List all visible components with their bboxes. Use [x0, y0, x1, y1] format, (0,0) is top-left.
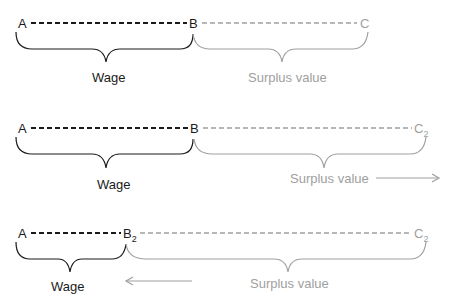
point-c-subscript: 2: [423, 234, 428, 244]
surplus-value-label: Surplus value: [290, 172, 369, 185]
point-c-letter: C: [414, 226, 423, 241]
surplus-value-label: Surplus value: [250, 277, 329, 290]
wage-brace: [16, 242, 126, 272]
point-c-subscript: 2: [423, 129, 428, 139]
point-a-label: A: [18, 122, 27, 135]
surplus-brace: [194, 137, 426, 168]
point-c-label: C: [360, 17, 369, 30]
arrow-right-icon: [376, 174, 439, 182]
surplus-brace: [126, 242, 426, 272]
point-a-label: A: [18, 227, 27, 240]
point-b-label: B2: [123, 227, 137, 240]
point-c-letter: C: [414, 121, 423, 136]
wage-label: Wage: [92, 71, 125, 84]
point-b-label: B: [189, 17, 198, 30]
diagram-canvas: [0, 0, 470, 304]
point-c-label: C2: [414, 122, 428, 135]
wage-brace: [16, 32, 193, 62]
point-b-letter: B: [190, 121, 199, 136]
wage-brace: [16, 137, 193, 168]
surplus-brace: [193, 32, 368, 62]
wage-label: Wage: [97, 178, 130, 191]
point-b-letter: B: [123, 226, 132, 241]
wage-label: Wage: [51, 280, 84, 293]
point-c-label: C2: [414, 227, 428, 240]
point-b-subscript: 2: [132, 234, 137, 244]
point-c-letter: C: [360, 16, 369, 31]
point-a-label: A: [18, 17, 27, 30]
point-b-letter: B: [189, 16, 198, 31]
point-b-label: B: [190, 122, 199, 135]
arrow-left-icon: [126, 277, 192, 285]
surplus-value-label: Surplus value: [248, 71, 327, 84]
